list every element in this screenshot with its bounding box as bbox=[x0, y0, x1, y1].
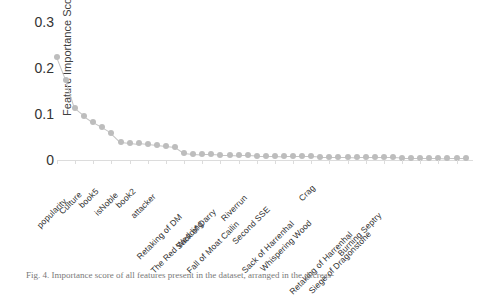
x-axis-tick bbox=[184, 160, 185, 164]
y-axis-tick-label: 0 bbox=[18, 153, 54, 167]
data-point-marker bbox=[136, 140, 142, 146]
data-point-marker bbox=[63, 77, 69, 83]
data-point-marker bbox=[208, 151, 214, 157]
x-axis-tick bbox=[111, 160, 112, 164]
data-point-marker bbox=[227, 152, 233, 158]
data-point-marker bbox=[463, 155, 469, 161]
data-point-marker bbox=[390, 154, 396, 160]
plot-area bbox=[57, 18, 473, 160]
x-axis-tick-label: Fall of Moat Cailin bbox=[185, 219, 242, 276]
data-point-marker bbox=[326, 154, 332, 160]
data-point-marker bbox=[299, 153, 305, 159]
figure-caption: Fig. 4. Importance score of all features… bbox=[26, 270, 458, 281]
data-point-marker bbox=[181, 150, 187, 156]
y-axis-tick-labels: 00.10.20.3 bbox=[14, 0, 54, 170]
x-axis-tick bbox=[57, 160, 58, 164]
x-axis-tick-label: Sack of Harrenhal bbox=[239, 219, 295, 275]
data-point-marker bbox=[54, 54, 60, 60]
data-point-marker bbox=[272, 153, 278, 159]
data-point-marker bbox=[163, 143, 169, 149]
x-axis-tick bbox=[93, 160, 94, 164]
x-axis-tick-label: Siege of Dragonstone bbox=[306, 229, 373, 296]
data-point-marker bbox=[408, 155, 414, 161]
x-axis-tick bbox=[366, 160, 367, 164]
x-axis-tick-label: Culture bbox=[57, 189, 84, 216]
data-point-marker bbox=[199, 151, 205, 157]
data-point-marker bbox=[317, 154, 323, 160]
x-axis-tick bbox=[384, 160, 385, 164]
data-point-marker bbox=[345, 154, 351, 160]
data-point-marker bbox=[154, 142, 160, 148]
x-axis-tick bbox=[311, 160, 312, 164]
x-axis-tick-label: Sack of Darry bbox=[174, 207, 218, 251]
x-axis-tick bbox=[148, 160, 149, 164]
data-point-marker bbox=[426, 155, 432, 161]
x-axis-tick-label: Burning Septry bbox=[335, 210, 383, 258]
y-axis-tick-label: 0.2 bbox=[18, 61, 54, 75]
x-axis-tick bbox=[293, 160, 294, 164]
x-axis-tick bbox=[220, 160, 221, 164]
x-axis-tick bbox=[130, 160, 131, 164]
x-axis-tick-label: Retaking of DM bbox=[135, 212, 184, 261]
x-axis-tick bbox=[257, 160, 258, 164]
x-axis-tick-label: Crag bbox=[297, 183, 317, 203]
x-axis-tick bbox=[402, 160, 403, 164]
data-point-marker bbox=[236, 152, 242, 158]
x-axis-tick bbox=[275, 160, 276, 164]
data-point-marker bbox=[354, 154, 360, 160]
data-point-marker bbox=[245, 152, 251, 158]
x-axis-tick-label: book5 bbox=[77, 186, 101, 210]
data-point-marker bbox=[372, 154, 378, 160]
series-line-segment bbox=[65, 80, 75, 109]
x-axis-tick-label: popularity bbox=[35, 196, 69, 230]
data-point-marker bbox=[335, 154, 341, 160]
data-point-marker bbox=[127, 140, 133, 146]
y-axis-tick-label: 0.3 bbox=[18, 15, 54, 29]
x-axis-tick-label: The Red Wedding bbox=[149, 219, 205, 275]
x-axis-tick bbox=[420, 160, 421, 164]
y-axis-tick-label: 0.1 bbox=[18, 107, 54, 121]
data-point-marker bbox=[281, 153, 287, 159]
data-point-marker bbox=[263, 153, 269, 159]
x-axis-tick bbox=[166, 160, 167, 164]
x-axis-tick-label: Riverrun bbox=[218, 193, 248, 223]
x-axis-tick bbox=[348, 160, 349, 164]
x-axis-tick-label: Second SSE bbox=[230, 204, 272, 246]
x-axis-tick bbox=[329, 160, 330, 164]
x-axis-tick bbox=[75, 160, 76, 164]
x-axis-tick-label: Retaking of Harrenhal bbox=[288, 229, 355, 296]
data-point-marker bbox=[145, 141, 151, 147]
x-axis-tick bbox=[438, 160, 439, 164]
data-point-marker bbox=[217, 152, 223, 158]
data-point-marker bbox=[308, 153, 314, 159]
x-axis-tick bbox=[239, 160, 240, 164]
data-point-marker bbox=[118, 139, 124, 145]
data-point-marker bbox=[290, 153, 296, 159]
x-axis-tick bbox=[457, 160, 458, 164]
x-axis-tick-label: attacker bbox=[128, 191, 157, 220]
x-axis-tick-label: book2 bbox=[113, 186, 137, 210]
data-point-marker bbox=[190, 151, 196, 157]
x-axis-tick-label: Whispering Wood bbox=[258, 218, 313, 273]
data-point-marker bbox=[254, 153, 260, 159]
x-axis-tick bbox=[202, 160, 203, 164]
x-axis-tick-label: isNoble bbox=[93, 190, 121, 218]
